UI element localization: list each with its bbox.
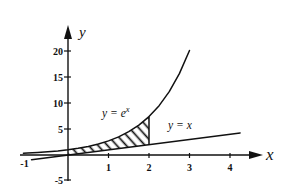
x-tick-label: 3 xyxy=(187,162,192,173)
x-tick-label: 4 xyxy=(228,162,233,173)
y-tick-label: 20 xyxy=(53,46,63,57)
y-axis-label: y xyxy=(77,24,86,40)
x-axis-label: x xyxy=(265,145,274,164)
y-tick-label: 10 xyxy=(53,98,63,109)
plot-area: -11234-55101520yxy = exy = x xyxy=(0,0,290,191)
y-tick-label: -5 xyxy=(55,175,63,186)
x-tick-label: -1 xyxy=(20,158,28,169)
superscript: x xyxy=(125,104,130,114)
y-tick-label: 5 xyxy=(58,124,63,135)
labels: -11234-55101520yxy = exy = x xyxy=(20,24,274,186)
y-tick-label: 15 xyxy=(53,72,63,83)
x-axis-arrow-icon xyxy=(249,151,263,159)
exp-curve xyxy=(23,51,189,154)
curve-annotation: y = x xyxy=(167,119,193,132)
x-tick-label: 1 xyxy=(106,162,111,173)
figure: -11234-55101520yxy = exy = x xyxy=(0,0,290,191)
x-tick-label: 2 xyxy=(147,162,152,173)
curve-annotation: y = ex xyxy=(101,104,130,120)
y-axis-arrow-icon xyxy=(64,25,72,39)
